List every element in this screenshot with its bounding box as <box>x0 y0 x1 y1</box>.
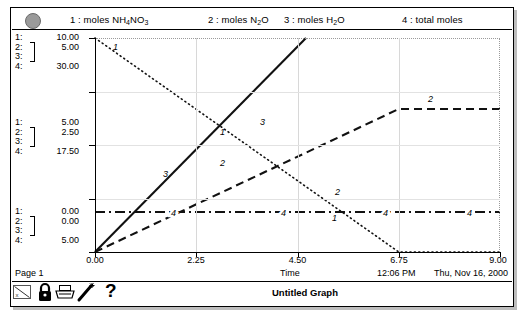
record-indicator-icon[interactable] <box>25 13 41 29</box>
legend-item-4[interactable]: 4 : total moles <box>402 14 463 25</box>
x-tick-label-0: 0.00 <box>75 255 115 265</box>
legend-item-1-mid: NO <box>130 14 144 25</box>
y-value-4: 5.00 <box>37 236 79 246</box>
x-tick-label-1: 2.25 <box>176 255 216 265</box>
clock-label: 12:06 PM <box>377 268 416 278</box>
y-value-2: 2.50 <box>37 128 79 138</box>
y-axis-group-middle-values: 5.00 2.50 17.50 <box>37 118 79 156</box>
y-value-4: 30.00 <box>37 62 79 72</box>
y-axis-group-bottom-values: 0.00 0.00 5.00 <box>37 207 79 245</box>
x-tick-label-2: 4.50 <box>278 255 318 265</box>
page-label: Page 1 <box>15 268 44 278</box>
y-value-4: 17.50 <box>37 147 79 157</box>
plot-area[interactable]: 1 1 1 2 2 2 3 3 4 4 4 4 4 4 4 4 <box>95 38 500 252</box>
y-axis-group-middle-bracket <box>30 127 35 147</box>
lock-icon[interactable] <box>37 282 53 302</box>
legend-item-1-label: 1 : moles NH <box>70 14 126 25</box>
x-tick-label-4: 9.00 <box>478 255 518 265</box>
legend-item-1[interactable]: 1 : moles NH4NO3 <box>70 14 149 26</box>
legend-item-4-label: 4 : total moles <box>402 14 463 25</box>
y-axis-tick <box>89 145 95 146</box>
gridline-horizontal <box>95 92 500 93</box>
y-axis-tick <box>89 199 95 200</box>
svg-text:x: x <box>16 292 19 298</box>
y-axis-group-top-series: 1: 2: 3: 4: <box>15 33 23 71</box>
y-series-label-4: 4: <box>15 62 23 72</box>
legend-item-3-label: 3 : moles H <box>284 14 333 25</box>
graph-window: 1 : moles NH4NO3 2 : moles N2O 3 : moles… <box>0 0 525 322</box>
date-label: Thu, Nov 16, 2000 <box>434 268 508 278</box>
legend-item-3[interactable]: 3 : moles H2O <box>284 14 345 26</box>
y-axis-group-middle-series: 1: 2: 3: 4: <box>15 118 23 156</box>
y-axis-group-top-bracket <box>30 42 35 62</box>
y-axis-tick <box>89 38 95 39</box>
legend-item-2-mid: O <box>261 14 269 25</box>
gridline-horizontal <box>95 199 500 200</box>
y-axis-group-bottom-series: 1: 2: 3: 4: <box>15 207 23 245</box>
arrow-tool-icon[interactable]: x <box>13 285 31 299</box>
legend-item-1-sub2: 3 <box>145 19 149 26</box>
help-icon[interactable]: ? <box>105 281 117 301</box>
x-axis-title: Time <box>280 268 300 278</box>
magic-wand-icon[interactable] <box>77 282 97 302</box>
graph-title: Untitled Graph <box>272 287 338 298</box>
x-tick-label-3: 6.75 <box>379 255 419 265</box>
y-axis-group-top-values: 10.00 5.00 30.00 <box>37 33 79 71</box>
y-axis-group-bottom-bracket <box>30 216 35 236</box>
y-series-label-4: 4: <box>15 147 23 157</box>
y-axis-line <box>95 38 96 252</box>
legend-item-2-label: 2 : moles N <box>208 14 257 25</box>
y-value-2: 0.00 <box>37 217 79 227</box>
gridline-horizontal <box>95 145 500 146</box>
y-value-2: 5.00 <box>37 43 79 53</box>
y-axis-tick <box>89 92 95 93</box>
legend-item-3-mid: O <box>337 14 345 25</box>
printer-icon[interactable] <box>55 285 75 301</box>
y-series-label-4: 4: <box>15 236 23 246</box>
legend-bar: 1 : moles NH4NO3 2 : moles N2O 3 : moles… <box>12 9 512 30</box>
legend-item-2[interactable]: 2 : moles N2O <box>208 14 269 26</box>
